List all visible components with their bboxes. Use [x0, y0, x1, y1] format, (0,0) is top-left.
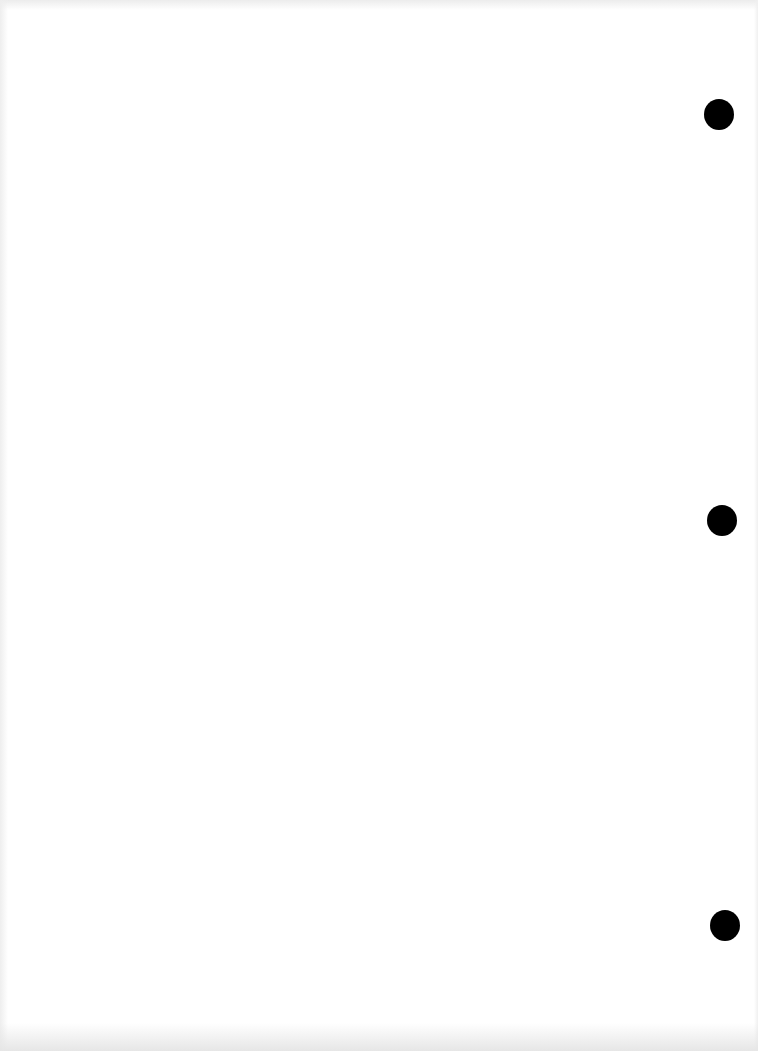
punch-hole-middle	[707, 505, 737, 536]
punch-hole-bottom	[710, 910, 740, 941]
scan-shadow-bottom	[0, 1023, 758, 1051]
punch-hole-top	[704, 99, 734, 130]
scan-shadow-right	[754, 0, 758, 1051]
scan-shadow-top	[0, 0, 758, 10]
scan-shadow-left	[0, 0, 8, 1051]
scanned-page	[0, 0, 758, 1051]
